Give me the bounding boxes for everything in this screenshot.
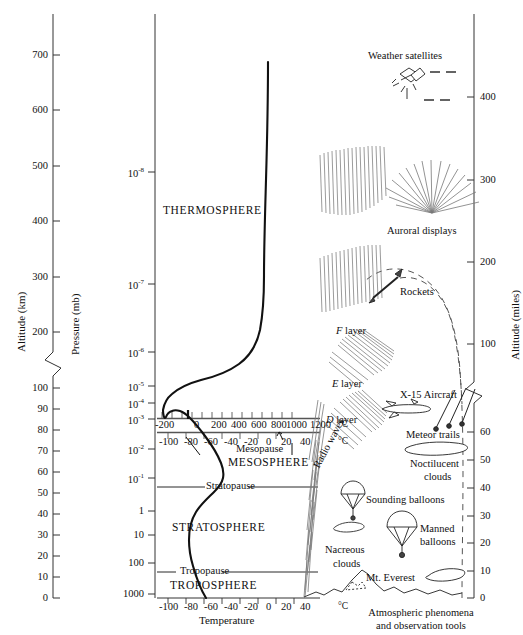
- temp-narrow-tick-40: 40: [300, 437, 311, 448]
- left-tick-100: 100: [14, 383, 48, 394]
- left-tick-700: 700: [14, 50, 48, 61]
- pressure-axis-title: Pressure (mb): [70, 294, 81, 355]
- left-tick-500: 500: [14, 161, 48, 172]
- pause-stratopause: Stratopause: [206, 481, 255, 492]
- pause-tropopause: Tropopause: [180, 566, 229, 577]
- phenomenon-manned-balloons-line2: balloons: [420, 537, 456, 548]
- phenomenon-weather-satellites: Weather satellites: [368, 51, 442, 62]
- temperature-profile-curve: [163, 62, 268, 598]
- pressure-tick-10: 10: [98, 530, 144, 541]
- left-tick-30: 30: [14, 530, 48, 541]
- phenomenon-meteor-trails: Meteor trails: [406, 430, 460, 441]
- right-tick-100: 100: [480, 339, 496, 350]
- right-tick-20: 20: [480, 538, 491, 549]
- temp-bottom-tick--80: -80: [184, 602, 198, 613]
- right-tick-50: 50: [480, 455, 491, 466]
- phenomenon-sounding-balloons: Sounding balloons: [366, 495, 444, 506]
- temp-narrow-tick--100: -100: [159, 437, 178, 448]
- right-tick-400: 400: [480, 92, 496, 103]
- layer-thermosphere: THERMOSPHERE: [163, 205, 262, 217]
- temp-bottom-tick--40: -40: [224, 602, 238, 613]
- temp-narrow-tick--60: -60: [204, 437, 218, 448]
- aircraft-icon: [382, 399, 431, 418]
- right-axis-title: Altitude (miles): [510, 290, 521, 360]
- satellite-icon: [392, 68, 456, 100]
- temp-upper-tick-1000: 1000: [286, 420, 307, 431]
- pressure-tick-1e-1: 10-1: [98, 473, 144, 485]
- pause-mesopause: Mesopause: [236, 444, 283, 455]
- right-tick-60: 60: [480, 427, 491, 438]
- temp-upper-tick--200: -200: [155, 420, 174, 431]
- temp-narrow-unit: °C: [338, 437, 348, 447]
- phenomenon-noctilucent-clouds-line2: clouds: [424, 472, 451, 483]
- temp-bottom-tick-0: 0: [266, 602, 271, 613]
- temp-narrow-tick--80: -80: [184, 437, 198, 448]
- pressure-tick-1e-2: 10-2: [98, 444, 144, 456]
- pressure-tick-1e-5: 10-5: [98, 381, 144, 393]
- rocket-icon: [369, 269, 402, 303]
- temperature-axis-upper-narrow: [157, 433, 320, 440]
- left-tick-90: 90: [14, 404, 48, 415]
- phenomenon-rockets: Rockets: [400, 287, 434, 298]
- pressure-axis: [148, 14, 155, 598]
- left-tick-400: 400: [14, 216, 48, 227]
- atmosphere-structure-figure: Altitude (km) 700 600 500 400 300 200 10…: [0, 0, 523, 635]
- cloud-icon: [334, 522, 365, 532]
- pressure-tick-1e-8: 10-8: [98, 167, 144, 179]
- balloon-icon: [387, 511, 417, 558]
- phenomenon-mt-everest: Mt. Everest: [366, 573, 415, 584]
- pressure-tick-1000: 1000: [95, 589, 144, 600]
- temp-bottom-tick-20: 20: [281, 602, 292, 613]
- right-tick-0: 0: [480, 593, 485, 604]
- left-tick-70: 70: [14, 446, 48, 457]
- temp-upper-tick-600: 600: [251, 420, 267, 431]
- right-tick-300: 300: [480, 175, 496, 186]
- phenomenon-manned-balloons-line1: Manned: [420, 524, 454, 535]
- pressure-tick-1e-6: 10-6: [98, 347, 144, 359]
- left-tick-0: 0: [14, 593, 48, 604]
- phenomenon-x15-aircraft: X-15 Aircraft: [400, 390, 457, 401]
- temp-bottom-tick--20: -20: [244, 602, 258, 613]
- left-tick-40: 40: [14, 509, 48, 520]
- right-tick-200: 200: [480, 257, 496, 268]
- phenomenon-f-layer: F layer: [336, 326, 366, 337]
- layer-stratosphere: STRATOSPHERE: [172, 522, 265, 534]
- right-tick-30: 30: [480, 511, 491, 522]
- phenomenon-e-layer: E layer: [332, 379, 362, 390]
- layer-mesosphere: MESOSPHERE: [228, 457, 309, 469]
- cloud-icon: [426, 569, 465, 581]
- pressure-tick-100: 100: [98, 558, 144, 569]
- phenomenon-nacreous-clouds-line2: clouds: [333, 559, 360, 570]
- figure-caption-line2: and observation tools: [336, 621, 506, 632]
- left-tick-300: 300: [14, 272, 48, 283]
- pressure-tick-1: 1: [98, 506, 144, 517]
- pressure-tick-1e-4: 10-4: [98, 398, 144, 410]
- left-axis-title: Altitude (km): [16, 292, 27, 352]
- temp-bottom-tick-40: 40: [300, 602, 311, 613]
- right-tick-40: 40: [480, 483, 491, 494]
- temp-bottom-tick--100: -100: [159, 602, 178, 613]
- pressure-tick-1e-7: 10-7: [98, 279, 144, 291]
- phenomenon-noctilucent-clouds-line1: Noctilucent: [410, 459, 459, 470]
- phenomenon-auroral-displays: Auroral displays: [387, 226, 457, 237]
- temp-upper-tick-800: 800: [271, 420, 287, 431]
- left-tick-10: 10: [14, 572, 48, 583]
- temp-upper-tick-0: 0: [194, 420, 199, 431]
- layer-troposphere: TROPOSPHERE: [170, 580, 257, 592]
- temp-bottom-tick--60: -60: [204, 602, 218, 613]
- left-tick-200: 200: [14, 327, 48, 338]
- temp-upper-tick-200: 200: [211, 420, 227, 431]
- left-tick-20: 20: [14, 551, 48, 562]
- right-tick-10: 10: [480, 566, 491, 577]
- left-tick-60: 60: [14, 467, 48, 478]
- phenomenon-nacreous-clouds-line1: Nacreous: [325, 545, 365, 556]
- temperature-axis-bottom: [157, 598, 320, 604]
- temperature-axis-title: Temperature: [199, 615, 254, 626]
- left-tick-600: 600: [14, 105, 48, 116]
- ionosphere-layer-icon: [320, 146, 386, 215]
- pressure-tick-1e-3: 10-3: [98, 414, 144, 426]
- temp-upper-tick-400: 400: [231, 420, 247, 431]
- balloon-icon: [341, 481, 365, 520]
- figure-caption-line1: Atmospheric phenomena: [336, 608, 506, 619]
- left-tick-80: 80: [14, 425, 48, 436]
